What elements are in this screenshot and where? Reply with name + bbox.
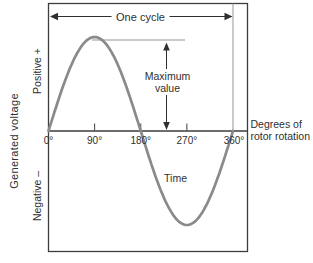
arrowhead-up-icon [163, 43, 170, 51]
x-tick-label-360: 360° [224, 135, 245, 146]
maximum-value-label: Maximum value [142, 69, 194, 95]
one-cycle-label: One cycle [111, 11, 170, 23]
y-axis-title: Generated voltage [8, 93, 20, 189]
maximum-value-line1: Maximum [145, 70, 191, 82]
x-tick-label-180: 180° [130, 135, 151, 146]
negative-label: Negative – [31, 171, 43, 221]
arrowhead-left-icon [50, 13, 58, 20]
plot-border [49, 4, 248, 252]
x-axis-title: Degrees of rotor rotation [251, 118, 311, 142]
arrowhead-right-icon [225, 13, 233, 20]
x-tick-label-90: 90° [87, 135, 102, 146]
maximum-value-line2: value [145, 82, 191, 94]
sine-wave-diagram: One cycle Maximum value Time Degrees of … [0, 0, 313, 263]
positive-label: Positive + [31, 48, 43, 94]
time-label: Time [164, 172, 187, 184]
x-axis-title-line1: Degrees of [251, 118, 311, 130]
x-tick-label-270: 270° [177, 135, 198, 146]
x-tick-label-0: 0° [44, 135, 54, 146]
x-axis-title-line2: rotor rotation [251, 130, 311, 142]
arrowhead-down-icon [163, 122, 170, 130]
